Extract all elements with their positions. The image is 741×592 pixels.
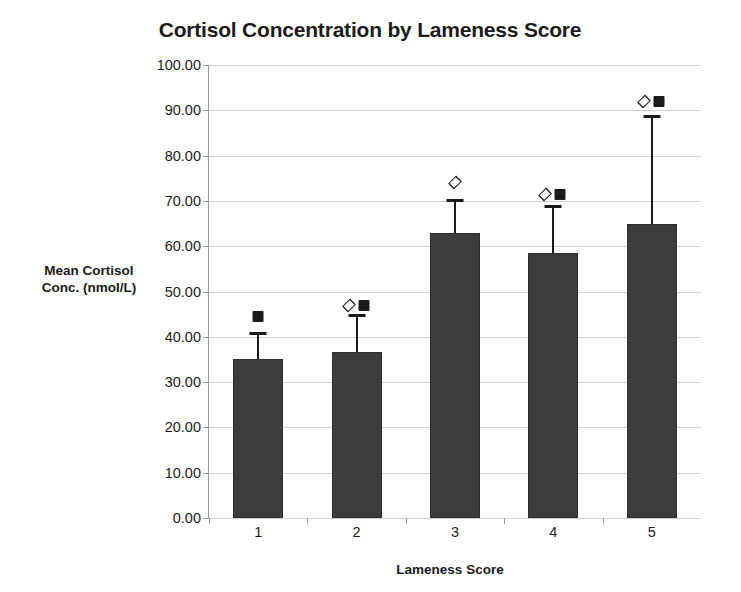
error-bar-stem xyxy=(356,314,358,352)
significance-marker-group xyxy=(451,175,460,191)
square-marker-icon xyxy=(358,300,369,311)
bar xyxy=(528,253,578,518)
error-bar-stem xyxy=(257,332,259,359)
y-axis-tick xyxy=(203,382,209,383)
bar xyxy=(332,352,382,518)
y-axis-tick-label: 80.00 xyxy=(135,148,201,164)
y-axis-tick xyxy=(203,201,209,202)
y-axis-title-line1: Mean Cortisol xyxy=(44,263,133,278)
y-axis-tick-label: 50.00 xyxy=(135,284,201,300)
y-axis-tick xyxy=(203,473,209,474)
y-axis-tick xyxy=(203,65,209,66)
x-axis-tick-label: 1 xyxy=(254,524,262,540)
gridline xyxy=(209,110,701,111)
error-bar-cap xyxy=(447,199,464,202)
y-axis-tick xyxy=(203,292,209,293)
diamond-marker-icon xyxy=(637,94,651,108)
significance-marker-group xyxy=(639,93,664,109)
x-axis-tick-labels: 12345 xyxy=(209,524,701,548)
y-axis-tick xyxy=(203,156,209,157)
error-bar-cap xyxy=(348,314,365,317)
y-axis-tick-label: 40.00 xyxy=(135,329,201,345)
error-bar-cap xyxy=(545,205,562,208)
square-marker-icon xyxy=(555,189,566,200)
diamond-marker-icon xyxy=(538,187,552,201)
square-marker-icon xyxy=(253,311,264,322)
y-axis-tick xyxy=(203,110,209,111)
error-bar-cap xyxy=(643,115,660,118)
y-axis-tick xyxy=(203,337,209,338)
gridline xyxy=(209,156,701,157)
y-axis-tick-label: 100.00 xyxy=(135,57,201,73)
gridline xyxy=(209,518,701,519)
significance-marker-group xyxy=(253,308,264,324)
y-axis-tick-label: 30.00 xyxy=(135,374,201,390)
error-bar-stem xyxy=(651,115,653,224)
y-axis-tick-label: 90.00 xyxy=(135,102,201,118)
y-axis-tick-label: 0.00 xyxy=(135,510,201,526)
significance-marker-group xyxy=(344,297,369,313)
y-axis-tick-label: 20.00 xyxy=(135,419,201,435)
error-bar-stem xyxy=(454,199,456,233)
chart-container: Cortisol Concentration by Lameness Score… xyxy=(0,0,741,592)
y-axis-tick-labels: 100.0090.0080.0070.0060.0050.0040.0030.0… xyxy=(135,65,201,518)
x-axis-tick-label: 2 xyxy=(353,524,361,540)
x-axis-tick-label: 4 xyxy=(549,524,557,540)
bar xyxy=(430,233,480,518)
plot-area xyxy=(209,65,701,518)
y-axis-tick xyxy=(203,427,209,428)
y-axis-title: Mean Cortisol Conc. (nmol/L) xyxy=(26,262,152,296)
error-bar-stem xyxy=(552,205,554,253)
bar xyxy=(627,224,677,518)
chart-title: Cortisol Concentration by Lameness Score xyxy=(70,18,670,42)
x-axis-tick-label: 3 xyxy=(451,524,459,540)
diamond-marker-icon xyxy=(342,298,356,312)
y-axis-title-line2: Conc. (nmol/L) xyxy=(26,279,152,296)
x-axis-tick-label: 5 xyxy=(648,524,656,540)
bar xyxy=(233,359,283,518)
error-bar-cap xyxy=(250,332,267,335)
y-axis-tick-label: 70.00 xyxy=(135,193,201,209)
square-marker-icon xyxy=(653,96,664,107)
y-axis-tick xyxy=(203,246,209,247)
gridline xyxy=(209,65,701,66)
y-axis-tick-label: 10.00 xyxy=(135,465,201,481)
diamond-marker-icon xyxy=(448,176,462,190)
x-axis-title: Lameness Score xyxy=(200,562,700,577)
significance-marker-group xyxy=(541,186,566,202)
y-axis-tick-label: 60.00 xyxy=(135,238,201,254)
